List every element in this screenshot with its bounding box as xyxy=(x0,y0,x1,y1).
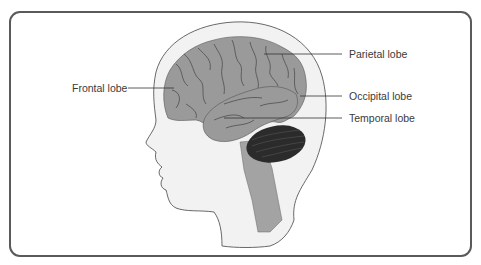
label-occipital-lobe: Occipital lobe xyxy=(349,91,412,102)
label-parietal-lobe: Parietal lobe xyxy=(349,49,407,60)
label-temporal-lobe: Temporal lobe xyxy=(349,113,415,124)
brain-diagram xyxy=(0,0,481,265)
label-frontal-lobe: Frontal lobe xyxy=(72,83,127,94)
